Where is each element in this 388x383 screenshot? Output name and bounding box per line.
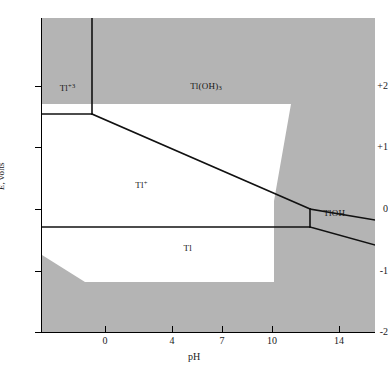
x-tick-mark — [222, 326, 223, 333]
region-label-thallium-hydroxide-1: TlOH — [323, 208, 345, 218]
y-tick-mark — [35, 209, 42, 210]
y-axis-title-units: , volts — [0, 162, 6, 184]
y-tick-mark — [35, 86, 42, 87]
plot-area: Tl+3 Tl(OH)3 Tl+ TlOH Tl — [42, 18, 375, 332]
region-label-text: Tl(OH)3 — [190, 81, 222, 91]
y-tick-label: +1 — [362, 142, 388, 152]
plot-graphics — [42, 18, 375, 332]
x-tick-mark — [105, 326, 106, 333]
x-tick-label: 10 — [257, 336, 287, 346]
x-tick-label: 7 — [207, 336, 237, 346]
x-tick-mark — [339, 326, 340, 333]
boundary-tloh-tlmetal-slope — [310, 227, 375, 245]
region-label-text: Tl — [184, 243, 192, 253]
y-tick-label: 0 — [362, 204, 388, 214]
y-axis-title: E, volts — [0, 162, 6, 190]
x-axis-line — [41, 332, 375, 333]
region-label-thallium-I-ion: Tl+ — [135, 180, 147, 191]
y-tick-label: -2 — [362, 327, 388, 337]
x-tick-label: 4 — [157, 336, 187, 346]
region-label-text: Tl+ — [135, 180, 147, 190]
x-tick-mark — [172, 326, 173, 333]
y-tick-mark — [35, 147, 42, 148]
y-tick-mark — [35, 271, 42, 272]
y-tick-label: +2 — [362, 81, 388, 91]
x-tick-label: 0 — [90, 336, 120, 346]
y-axis-line — [41, 18, 42, 332]
y-tick-mark — [35, 332, 42, 333]
region-label-thallium-metal: Tl — [184, 243, 192, 253]
region-label-thallium-III-ion: Tl+3 — [60, 82, 76, 93]
region-label-text: TlOH — [323, 208, 345, 218]
water-stability-field — [42, 104, 291, 282]
x-tick-mark — [272, 326, 273, 333]
y-tick-label: -1 — [362, 266, 388, 276]
x-axis-title: pH — [0, 351, 388, 362]
pourbaix-diagram-figure: Tl+3 Tl(OH)3 Tl+ TlOH Tl +2 +1 0 -1 -2 0… — [0, 0, 388, 383]
region-label-thallium-hydroxide-3: Tl(OH)3 — [190, 81, 222, 91]
region-label-text: Tl+3 — [60, 83, 76, 93]
x-tick-label: 14 — [324, 336, 354, 346]
y-axis-title-symbol: E — [0, 185, 6, 191]
